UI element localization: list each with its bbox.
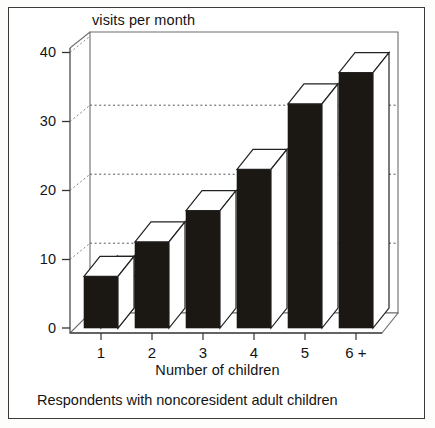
x-tick-label-2: 2	[129, 344, 175, 361]
x-tick-label-6: 6 +	[333, 344, 379, 361]
bar-category-2	[135, 222, 185, 328]
y-tick-label-40: 40	[22, 44, 56, 60]
x-tick-label-4: 4	[231, 344, 277, 361]
x-tick-label-5: 5	[282, 344, 328, 361]
y-tick-label-30: 30	[22, 113, 56, 129]
y-tick-label-10: 10	[22, 251, 56, 267]
bar-category-5	[288, 84, 338, 328]
x-tick-label-1: 1	[78, 344, 124, 361]
y-tick-label-20: 20	[22, 182, 56, 198]
x-axis	[70, 333, 382, 340]
figure-caption: Respondents with noncoresident adult chi…	[37, 392, 338, 408]
y-tick-label-0: 0	[22, 320, 56, 336]
bar-category-4	[237, 149, 287, 328]
bar-category-3	[186, 191, 236, 328]
chart-figure: visits per month 40 30 20 10 0 1 2 3 4 5…	[0, 0, 435, 428]
y-axis-title: visits per month	[92, 12, 195, 28]
bar-category-6	[339, 53, 389, 328]
x-axis-title: Number of children	[0, 362, 435, 378]
x-tick-label-3: 3	[180, 344, 226, 361]
